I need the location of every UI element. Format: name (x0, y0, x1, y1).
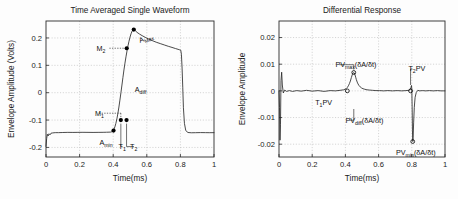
x-tick-label-4: 0.8 (407, 160, 418, 169)
annotation-subscript: min (406, 152, 414, 158)
y-tick-label-0: -0.2 (29, 143, 42, 152)
A_Max-point (132, 28, 136, 32)
y-tick-label-0: -0.02 (258, 140, 275, 149)
annotation-tail: PV (416, 64, 426, 73)
annotation-T1: T1 (119, 142, 126, 152)
x-tick-label-0: 0 (277, 160, 281, 169)
annotation-tail: PV (322, 98, 332, 107)
x-axis-label: Time(ms) (113, 174, 148, 183)
annotation-A_Max: AMax (137, 31, 155, 46)
panel-differential-response: Differential Response00.20.40.60.81-0.02… (229, 0, 458, 199)
y-tick-label-2: 0 (38, 88, 42, 97)
annotation-PV_diff: PVdiff(δA/δt) (345, 116, 383, 126)
annotation-M1: M1 (95, 109, 104, 119)
y-tick-label-3: 0.01 (260, 60, 275, 69)
plot-frame (279, 21, 445, 157)
y-tick-label-4: 0.2 (31, 34, 42, 43)
annotation-subscript: 2 (102, 48, 105, 54)
x-tick-label-0: 0 (44, 160, 48, 169)
annotation-base: PV (396, 148, 406, 157)
x-tick-label-2: 0.4 (340, 160, 351, 169)
annotation-subscript: 1 (123, 146, 126, 152)
annotation-tail: (δA/δt) (355, 60, 377, 69)
y-axis-label: Envelope Amplitude (Volts) (7, 40, 16, 138)
y-tick-label-3: 0.1 (31, 61, 42, 70)
plot-frame (46, 21, 214, 157)
annotation-subscript: 2 (134, 146, 137, 152)
y-axis-label: Envelope Amplitude (238, 52, 247, 125)
annotation-T1PV: T1PV (315, 98, 332, 108)
annotation-subscript: min (104, 142, 112, 148)
x-tick-label-3: 0.6 (373, 160, 384, 169)
plot-left: Time Averaged Single Waveform00.20.40.60… (0, 0, 229, 199)
plot-right: Differential Response00.20.40.60.81-0.02… (229, 0, 458, 199)
T1-point (119, 118, 123, 122)
y-tick-label-1: -0.1 (29, 116, 42, 125)
plot-title: Time Averaged Single Waveform (71, 6, 190, 15)
annotation-subscript: 1 (101, 113, 104, 119)
y-tick-label-4: 0.02 (260, 33, 275, 42)
x-tick-label-5: 1 (212, 160, 216, 169)
annotation-subscript: diff (140, 89, 147, 95)
x-tick-label-5: 1 (443, 160, 447, 169)
y-tick-label-1: -0.01 (258, 113, 275, 122)
annotation-tail: (δA/δt) (362, 116, 384, 125)
annotation-PV_min: PVmin(δA/δt) (396, 148, 436, 158)
annotation-A_min: Amin (99, 138, 112, 148)
T2-point (124, 118, 128, 122)
T1PV-point (345, 89, 349, 93)
panel-time-averaged-single-waveform: Time Averaged Single Waveform00.20.40.60… (0, 0, 229, 199)
x-axis-label: Time(ms) (345, 174, 380, 183)
figure-container: Time Averaged Single Waveform00.20.40.60… (0, 0, 458, 199)
x-tick-label-2: 0.4 (108, 160, 119, 169)
x-tick-label-1: 0.2 (307, 160, 318, 169)
A_min-point (111, 128, 115, 132)
annotation-base: PV (335, 60, 345, 69)
annotation-base: PV (345, 116, 355, 125)
annotation-T2: T2 (130, 142, 137, 152)
M2-point (125, 46, 129, 50)
annotation-T2PV: T2PV (408, 64, 425, 74)
y-tick-label-2: 0 (271, 87, 275, 96)
data-trace-derivative (279, 72, 445, 141)
x-tick-label-3: 0.6 (142, 160, 153, 169)
annotation-M2: M2 (96, 44, 105, 54)
annotation-subscript: max (345, 64, 355, 70)
annotation-A_diff: Adiff (135, 85, 147, 95)
data-trace-envelope (46, 30, 214, 147)
annotation-PV_max: PVmax(δA/δt) (335, 60, 376, 70)
plot-title: Differential Response (323, 6, 402, 15)
x-tick-label-1: 0.2 (74, 160, 85, 169)
x-tick-label-4: 0.8 (175, 160, 186, 169)
annotation-subscript: Max (143, 35, 155, 44)
annotation-tail: (δA/δt) (414, 148, 436, 157)
